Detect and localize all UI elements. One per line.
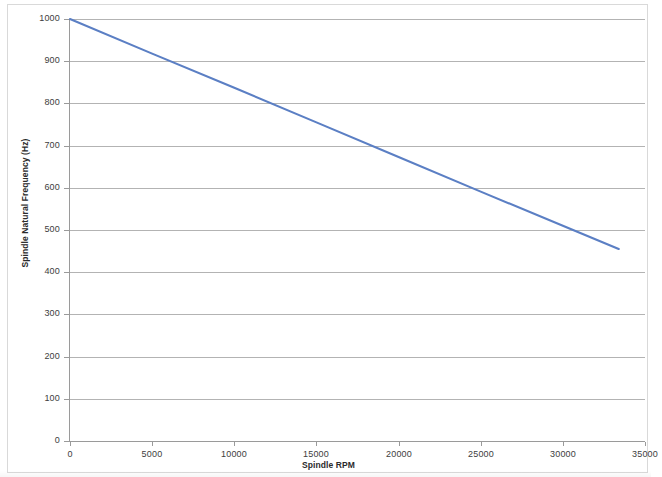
y-axis-tick — [64, 399, 69, 400]
y-axis-tick — [64, 272, 69, 273]
x-axis-tick-label: 35000 — [610, 449, 662, 459]
series-polyline — [70, 19, 619, 249]
y-axis-tick-label: 1000 — [8, 14, 60, 23]
y-axis-tick-label: 200 — [8, 352, 60, 361]
y-axis-tick — [64, 441, 69, 442]
y-axis-tick — [64, 19, 69, 20]
x-axis-tick — [70, 442, 71, 446]
y-axis-tick-label: 300 — [8, 309, 60, 318]
y-axis-tick — [64, 103, 69, 104]
y-axis-tick-label: 700 — [8, 141, 60, 150]
data-series-line — [70, 19, 645, 441]
y-axis-tick — [64, 188, 69, 189]
x-axis-tick — [234, 442, 235, 446]
y-axis-tick-label: 500 — [8, 225, 60, 234]
y-axis-tick — [64, 357, 69, 358]
x-axis-tick — [316, 442, 317, 446]
y-axis-tick — [64, 230, 69, 231]
y-axis-tick-label: 0 — [8, 436, 60, 445]
x-axis-tick — [481, 442, 482, 446]
x-axis-title: Spindle RPM — [8, 460, 649, 470]
x-axis-tick-label: 20000 — [364, 449, 434, 459]
gridline — [70, 441, 645, 442]
y-axis-title: Spindle Natural Frequency (Hz) — [20, 103, 30, 303]
y-axis-tick — [64, 61, 69, 62]
x-axis-tick — [563, 442, 564, 446]
y-axis-tick-label: 900 — [8, 56, 60, 65]
chart-frame: 01002003004005006007008009001000 0500010… — [7, 4, 648, 473]
y-axis-tick — [64, 146, 69, 147]
x-axis-tick — [399, 442, 400, 446]
x-axis-tick-label: 25000 — [446, 449, 516, 459]
y-axis-tick — [64, 314, 69, 315]
plot-area — [70, 19, 645, 441]
x-axis-tick-label: 5000 — [117, 449, 187, 459]
x-axis-tick — [152, 442, 153, 446]
y-axis-tick-label: 100 — [8, 394, 60, 403]
x-axis-tick-label: 0 — [35, 449, 105, 459]
x-axis-tick — [645, 442, 646, 446]
x-axis-tick-label: 30000 — [528, 449, 598, 459]
x-axis-tick-label: 15000 — [281, 449, 351, 459]
y-axis-tick-label: 600 — [8, 183, 60, 192]
y-axis-tick-label: 400 — [8, 267, 60, 276]
x-axis-tick-label: 10000 — [199, 449, 269, 459]
y-axis-tick-label: 800 — [8, 98, 60, 107]
